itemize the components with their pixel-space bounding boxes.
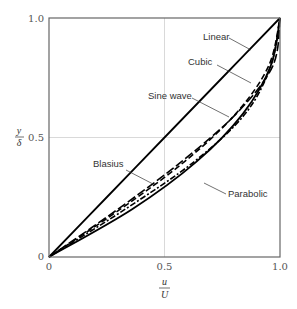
svg-text:u: u: [162, 276, 167, 287]
y-axis-label: y δ: [15, 125, 24, 148]
x-axis-label: u U: [159, 276, 170, 300]
y-tick-0.5: 0.5: [28, 132, 44, 143]
label-sine-wave: Sine wave: [148, 90, 192, 101]
x-tick-1.0: 1.0: [272, 261, 288, 272]
svg-text:δ: δ: [17, 137, 22, 148]
label-cubic: Cubic: [188, 56, 213, 67]
svg-text:U: U: [161, 289, 169, 300]
label-blasius: Blasius: [93, 158, 124, 169]
x-tick-0.5: 0.5: [157, 261, 173, 272]
x-tick-0: 0: [46, 261, 52, 272]
y-tick-0: 0: [38, 251, 44, 262]
label-parabolic: Parabolic: [228, 188, 268, 199]
label-linear: Linear: [203, 31, 229, 42]
velocity-profile-chart: 1.0 0.5 0 0 0.5 1.0 y δ u U Linear Cubic…: [0, 0, 297, 309]
svg-text:y: y: [16, 125, 22, 136]
y-tick-1.0: 1.0: [28, 13, 44, 24]
